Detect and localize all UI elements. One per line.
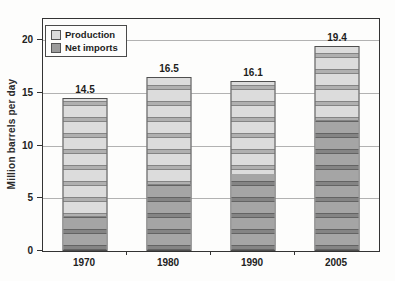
y-axis-tick-label: 10 xyxy=(11,139,33,150)
x-axis-category-label: 2005 xyxy=(325,257,347,268)
barrel-ribs xyxy=(232,82,275,250)
barrel-ribs xyxy=(64,99,107,250)
legend-item-production: Production xyxy=(51,29,118,40)
bar-value-label: 16.5 xyxy=(159,63,178,74)
y-axis-tick xyxy=(37,197,42,198)
stacked-bar-chart: Million barrels per day Production Net i… xyxy=(0,0,395,281)
bar-value-label: 14.5 xyxy=(75,84,94,95)
production-swatch-icon xyxy=(51,30,61,40)
x-axis-minor-tick xyxy=(210,251,211,255)
y-axis-tick xyxy=(37,39,42,40)
bar-value-label: 16.1 xyxy=(243,67,262,78)
bar-value-label: 19.4 xyxy=(327,32,346,43)
x-axis-category-label: 1990 xyxy=(241,257,263,268)
legend: Production Net imports xyxy=(45,25,127,57)
legend-label-production: Production xyxy=(65,29,115,40)
barrel-ribs xyxy=(148,78,191,250)
barrel-ribs xyxy=(316,47,359,250)
legend-label-net-imports: Net imports xyxy=(65,42,118,53)
legend-item-net-imports: Net imports xyxy=(51,42,118,53)
net-imports-swatch-icon xyxy=(51,43,61,53)
bar-2005 xyxy=(315,46,360,251)
bar-1990 xyxy=(231,81,276,251)
x-axis-category-label: 1970 xyxy=(73,257,95,268)
y-axis-tick xyxy=(37,92,42,93)
x-axis-minor-tick xyxy=(294,251,295,255)
bar-1970 xyxy=(63,98,108,251)
y-axis-tick-label: 0 xyxy=(11,245,33,256)
y-axis-tick-label: 15 xyxy=(11,86,33,97)
y-axis-tick-label: 20 xyxy=(11,34,33,45)
y-axis-tick-label: 5 xyxy=(11,192,33,203)
y-axis-tick xyxy=(37,145,42,146)
x-axis-category-label: 1980 xyxy=(157,257,179,268)
x-axis-minor-tick xyxy=(126,251,127,255)
bar-1980 xyxy=(147,77,192,251)
plot-area: Production Net imports 14.516.516.119.4 xyxy=(42,18,380,252)
y-axis-tick xyxy=(37,250,42,251)
